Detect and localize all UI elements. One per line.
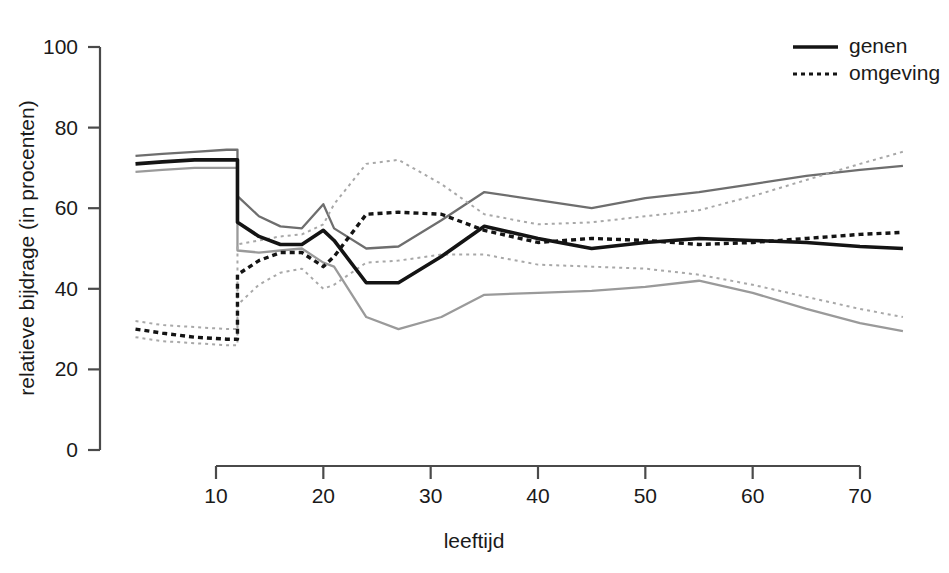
chart-container: 020406080100 10203040506070 leeftijd rel… [0,0,949,573]
y-axis-title: relatieve bijdrage (in procenten) [15,100,38,395]
series-line-omgeving-lower [136,255,903,346]
y-tick-group: 020406080100 [43,35,100,461]
y-tick-label: 0 [66,438,78,461]
x-axis-title: leeftijd [444,529,505,552]
x-tick-label: 50 [634,484,657,507]
x-tick-label: 60 [741,484,764,507]
legend-label-omgeving: omgeving [849,61,940,84]
x-tick-label: 40 [526,484,549,507]
y-tick-label: 40 [55,277,78,300]
series-group [136,150,903,345]
y-tick-label: 20 [55,357,78,380]
y-tick-label: 100 [43,35,78,58]
x-tick-group: 10203040506070 [204,466,871,507]
y-axis: 020406080100 [43,35,100,461]
x-tick-label: 10 [204,484,227,507]
chart-legend: genenomgeving [793,34,940,84]
y-tick-label: 60 [55,196,78,219]
x-tick-label: 30 [419,484,442,507]
series-line-genen-lower [136,168,903,331]
line-chart: 020406080100 10203040506070 leeftijd rel… [0,0,949,573]
x-tick-label: 20 [312,484,335,507]
x-axis: 10203040506070 [204,466,871,507]
y-tick-label: 80 [55,116,78,139]
x-tick-label: 70 [848,484,871,507]
legend-label-genen: genen [849,34,907,57]
